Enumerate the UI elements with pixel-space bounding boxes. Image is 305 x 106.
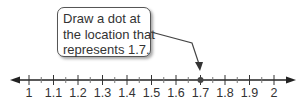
tick-label: 1.9 [241,86,258,100]
tick-label: 1.4 [118,86,135,100]
tick-label: 1.8 [216,86,233,100]
tick-label: 1.3 [94,86,111,100]
tick-label: 1.1 [45,86,62,100]
tick-label: 1.2 [69,86,86,100]
right-arrow-icon [286,77,296,84]
callout-pointer [151,32,199,64]
dot-1-7 [198,77,204,83]
left-arrow-icon [10,77,20,84]
tick-label: 1.5 [143,86,160,100]
tick-label: 2 [271,86,278,100]
tick-marks [29,75,274,85]
tick-label: 1 [26,86,33,100]
tick-label: 1.7 [192,86,209,100]
pointer-arrowhead-icon [195,62,203,71]
tick-label: 1.6 [167,86,184,100]
